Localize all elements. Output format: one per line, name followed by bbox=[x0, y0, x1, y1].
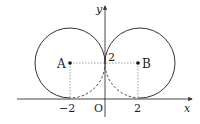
circle-B-dashed-arc bbox=[105, 63, 140, 98]
point-A bbox=[68, 61, 72, 65]
point-A-label: A bbox=[56, 57, 66, 71]
diagram-canvas: A B 2 −2 2 O x y bbox=[0, 0, 200, 124]
point-B bbox=[136, 61, 140, 65]
x-tick-neg2-label: −2 bbox=[59, 102, 75, 115]
x-tick-2-label: 2 bbox=[134, 102, 141, 115]
point-B-label: B bbox=[142, 57, 151, 71]
origin-label: O bbox=[94, 102, 103, 115]
y-tick-2-label: 2 bbox=[108, 51, 115, 64]
x-axis-label: x bbox=[184, 102, 191, 115]
y-axis-label: y bbox=[95, 3, 103, 16]
circle-A-dashed-arc bbox=[70, 63, 105, 98]
